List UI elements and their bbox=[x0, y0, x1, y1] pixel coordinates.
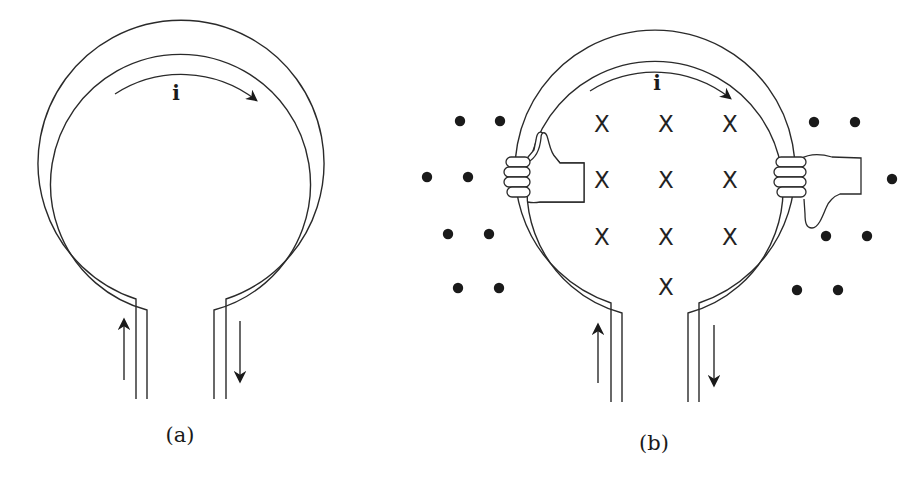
field-dot bbox=[833, 285, 843, 295]
field-dot bbox=[455, 116, 465, 126]
field-dot bbox=[453, 283, 463, 293]
loop-b-inner-edge bbox=[527, 61, 783, 402]
field-dot bbox=[809, 117, 819, 127]
loop-a-outer-edge bbox=[38, 20, 324, 399]
field-dot bbox=[821, 231, 831, 241]
panel-a bbox=[38, 20, 324, 399]
field-x-mark: X bbox=[594, 224, 610, 250]
hand-thumb-up-icon bbox=[504, 132, 584, 203]
field-dot bbox=[443, 229, 453, 239]
caption-a: (a) bbox=[166, 423, 195, 447]
field-into-page-marks: XXXXXXXXXX bbox=[594, 111, 738, 300]
field-dot bbox=[494, 283, 504, 293]
caption-b: (b) bbox=[639, 431, 669, 455]
field-x-mark: X bbox=[594, 167, 610, 193]
current-label-a: i bbox=[172, 81, 180, 105]
field-dot bbox=[422, 172, 432, 182]
figure-canvas: i (a) i (b) XXXXXXXXXX bbox=[0, 0, 920, 484]
field-x-mark: X bbox=[722, 111, 738, 137]
field-x-mark: X bbox=[658, 167, 674, 193]
field-x-mark: X bbox=[658, 224, 674, 250]
field-dot bbox=[850, 117, 860, 127]
field-dot bbox=[484, 229, 494, 239]
field-dot bbox=[463, 172, 473, 182]
current-arrow-a bbox=[115, 74, 256, 100]
field-x-mark: X bbox=[658, 274, 674, 300]
field-x-mark: X bbox=[722, 224, 738, 250]
field-dot bbox=[887, 174, 897, 184]
field-x-mark: X bbox=[594, 111, 610, 137]
field-x-mark: X bbox=[658, 111, 674, 137]
loop-a-inner-edge bbox=[51, 54, 311, 399]
field-dot bbox=[792, 285, 802, 295]
field-dot bbox=[495, 116, 505, 126]
current-label-b: i bbox=[653, 71, 661, 95]
field-x-mark: X bbox=[722, 167, 738, 193]
field-dot bbox=[862, 231, 872, 241]
